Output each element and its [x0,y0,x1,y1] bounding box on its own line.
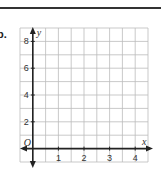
x-axis-arrow-right [146,146,153,152]
x-tick-label: 1 [56,153,61,163]
y-tick-label: 6 [24,63,29,73]
x-tick-label: 3 [107,153,112,163]
y-axis-label: y [36,27,42,38]
tick-labels: 12342468 [24,36,138,162]
origin-label: O [24,137,31,148]
y-axis-arrow-down [30,161,36,168]
axes [20,27,153,168]
y-tick-label: 2 [24,117,29,127]
x-axis-label: x [141,136,147,147]
x-tick-label: 4 [133,153,138,163]
coordinate-grid-chart: 12342468 x y O [0,0,161,174]
x-tick-label: 2 [81,153,86,163]
y-tick-label: 8 [24,36,29,46]
grid-lines [20,28,148,162]
y-tick-label: 4 [24,90,29,100]
